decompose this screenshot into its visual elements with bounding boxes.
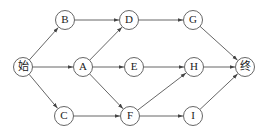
edge-I-to-end	[200, 74, 238, 110]
edge-F-to-H	[138, 73, 187, 110]
node-label: 始	[18, 59, 29, 72]
node-D: D	[120, 11, 139, 30]
node-label: B	[61, 13, 68, 25]
edge-A-to-F	[90, 74, 124, 109]
node-F: F	[121, 107, 140, 126]
nodes-layer: 始BACDEFGHI终	[14, 11, 255, 126]
edge-A-to-D	[90, 27, 122, 60]
network-diagram: 始BACDEFGHI终	[0, 0, 271, 134]
node-label: D	[125, 13, 133, 25]
node-end: 终	[236, 58, 255, 77]
node-label: G	[189, 13, 197, 25]
node-start: 始	[14, 58, 33, 77]
node-label: C	[60, 109, 67, 121]
node-E: E	[125, 58, 144, 77]
node-label: A	[79, 60, 87, 72]
node-A: A	[74, 58, 93, 77]
edge-start-to-C	[29, 74, 57, 108]
node-C: C	[55, 107, 74, 126]
node-label: F	[127, 109, 133, 121]
node-label: I	[191, 109, 195, 121]
node-H: H	[185, 58, 204, 77]
node-B: B	[56, 11, 75, 30]
node-G: G	[184, 11, 203, 30]
edge-G-to-end	[200, 26, 238, 60]
node-label: H	[190, 60, 198, 72]
node-I: I	[184, 107, 203, 126]
edge-start-to-B	[29, 27, 58, 59]
diagram-svg: 始BACDEFGHI终	[0, 0, 271, 134]
node-label: 终	[240, 59, 251, 72]
node-label: E	[131, 60, 138, 72]
